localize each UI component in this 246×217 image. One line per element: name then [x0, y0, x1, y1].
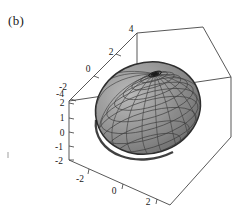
tick-front-0 — [122, 184, 123, 189]
tick-front-2 — [156, 199, 157, 204]
tick-vert-0 — [69, 132, 74, 133]
tick-label-vert-1: 1 — [60, 113, 65, 123]
tick-label-back-2: 2 — [109, 47, 114, 57]
tick-vert-m1 — [69, 146, 74, 147]
tick-back-2 — [116, 54, 121, 56]
box-edge-top-back — [137, 27, 203, 33]
ellipsoid-surface-plot: -2 0 2 4 -4 2 1 0 -1 -2 -2 0 2 — [0, 0, 246, 217]
tick-label-back-4: 4 — [129, 24, 134, 34]
tick-vert-2 — [69, 103, 74, 104]
tick-label-front-0: 0 — [112, 186, 117, 196]
box-edge-bottom-front-right — [170, 137, 231, 205]
tick-front-m2 — [88, 169, 89, 174]
tick-label-vert-2: 2 — [60, 98, 65, 108]
figure-panel-b: (b) — [0, 0, 246, 217]
tick-label-vert-minus1: -1 — [55, 142, 63, 152]
tick-label-front-minus2: -2 — [76, 174, 84, 184]
tick-label-back-0: 0 — [86, 64, 91, 74]
tick-label-vert-minus2: -2 — [55, 156, 63, 166]
box-edge-bottom-front-left — [69, 160, 170, 205]
tick-label-front-2: 2 — [146, 197, 151, 207]
tick-label-vert-0: 0 — [60, 128, 65, 138]
tick-back-0 — [94, 76, 99, 78]
box-edge-top-right — [203, 27, 231, 77]
tick-vert-1 — [69, 118, 74, 119]
